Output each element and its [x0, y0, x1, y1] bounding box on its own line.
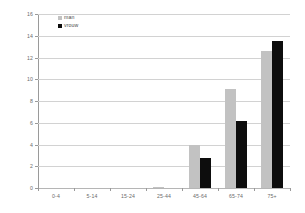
gridline	[38, 188, 290, 189]
x-tick-mark	[110, 188, 111, 191]
legend-swatch-icon	[58, 16, 62, 20]
bar-vrouw-65-74	[236, 121, 247, 188]
legend-item-vrouw[interactable]: vrouw	[58, 22, 98, 30]
y-tick-mark	[35, 79, 38, 80]
x-tick-mark	[38, 188, 39, 191]
y-tick-mark	[35, 188, 38, 189]
x-tick-label: 25-44	[146, 193, 182, 207]
y-tick-label: 4	[3, 142, 33, 148]
y-tick-label: 12	[3, 55, 33, 61]
x-tick-label: 45-64	[182, 193, 218, 207]
bar-group	[110, 14, 146, 188]
y-tick-mark	[35, 145, 38, 146]
bar-group	[254, 14, 290, 188]
legend-label: man	[64, 15, 74, 20]
x-tick-label: 65-74	[218, 193, 254, 207]
y-tick-label: 0	[3, 185, 33, 191]
x-tick-label: 5-14	[74, 193, 110, 207]
x-tick-label: 0-4	[38, 193, 74, 207]
x-tick-mark	[290, 188, 291, 191]
bar-group	[218, 14, 254, 188]
bar-group	[74, 14, 110, 188]
legend-label: vrouw	[64, 23, 78, 28]
legend-item-man[interactable]: man	[58, 14, 98, 22]
y-tick-label: 16	[3, 11, 33, 17]
x-tick-mark	[218, 188, 219, 191]
y-tick-label: 8	[3, 98, 33, 104]
x-axis-labels: 0-45-1415-2425-4445-6465-7475+	[38, 193, 290, 207]
x-tick-mark	[74, 188, 75, 191]
y-tick-label: 6	[3, 120, 33, 126]
y-tick-label: 2	[3, 163, 33, 169]
y-tick-mark	[35, 58, 38, 59]
bar-chart: 1614121086420 0-45-1415-2425-4445-6465-7…	[0, 0, 305, 213]
legend-swatch-icon	[58, 24, 62, 28]
y-tick-mark	[35, 101, 38, 102]
y-axis-labels: 1614121086420	[0, 0, 33, 213]
bar-groups	[38, 14, 290, 188]
bar-man-25-44	[153, 187, 164, 188]
x-tick-mark	[146, 188, 147, 191]
x-tick-mark	[254, 188, 255, 191]
y-tick-mark	[35, 123, 38, 124]
bar-man-65-74	[225, 89, 236, 188]
chart-legend: manvrouw	[58, 14, 98, 30]
bar-group	[182, 14, 218, 188]
bar-man-75+	[261, 51, 272, 188]
y-tick-mark	[35, 14, 38, 15]
y-tick-label: 14	[3, 33, 33, 39]
y-tick-mark	[35, 166, 38, 167]
y-tick-mark	[35, 36, 38, 37]
plot-area	[38, 14, 290, 188]
x-tick-mark	[182, 188, 183, 191]
bar-group	[146, 14, 182, 188]
bar-vrouw-45-64	[200, 158, 211, 188]
x-tick-label: 15-24	[110, 193, 146, 207]
x-tick-label: 75+	[254, 193, 290, 207]
bar-man-45-64	[189, 145, 200, 189]
bar-vrouw-75+	[272, 41, 283, 188]
bar-group	[38, 14, 74, 188]
y-tick-label: 10	[3, 76, 33, 82]
